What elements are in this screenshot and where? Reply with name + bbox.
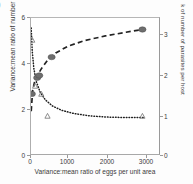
y-axis-tick-label-2: 2 bbox=[11, 106, 25, 113]
y2-axis-tick-label-3: 3 bbox=[164, 31, 178, 38]
circle-markers bbox=[31, 27, 146, 97]
x-axis-tick-label-1000: 1000 bbox=[54, 158, 80, 165]
y2-axis-tick-label-0: 0 bbox=[164, 152, 178, 159]
y2-axis-title: k of number of parasites per host bbox=[180, 0, 187, 108]
y-axis-title: Variance:mean ratio of number of parasit… bbox=[9, 0, 16, 92]
y2-axis-tick-label-2: 2 bbox=[164, 72, 178, 79]
panel-label: ) bbox=[0, 0, 1, 10]
triangle-markers bbox=[31, 37, 145, 118]
y2-axis-tick-label-1: 1 bbox=[164, 113, 178, 120]
dotted-fit-curve bbox=[31, 28, 144, 118]
x-axis-tick-label-2000: 2000 bbox=[94, 158, 120, 165]
x-axis-title: Variance:mean ratio of eggs per unit are… bbox=[16, 168, 174, 175]
plot-svg bbox=[31, 18, 161, 156]
dashed-fit-curve bbox=[31, 30, 142, 112]
plot-area bbox=[30, 17, 160, 155]
x-axis-tick-label-3000: 3000 bbox=[133, 158, 159, 165]
x-axis-tick-label-0: 0 bbox=[17, 158, 43, 165]
chart-figure: ) 6 4 2 0 3 2 1 0 0 1000 2000 3000 Varia… bbox=[0, 0, 193, 184]
